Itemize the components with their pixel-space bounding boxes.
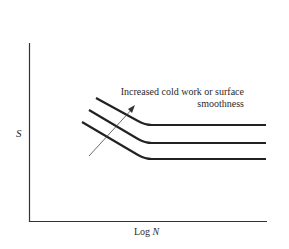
x-axis-label: Log N (134, 226, 159, 237)
curve-lower (82, 122, 266, 159)
y-axis-label: S (16, 127, 22, 139)
annotation-line2: smoothness (108, 98, 244, 110)
annotation-text: Increased cold work or surface smoothnes… (108, 86, 244, 110)
x-axis-label-var: N (153, 226, 160, 237)
sn-diagram (0, 0, 289, 249)
x-axis-label-prefix: Log (134, 226, 153, 237)
annotation-line1: Increased cold work or surface (108, 86, 244, 98)
